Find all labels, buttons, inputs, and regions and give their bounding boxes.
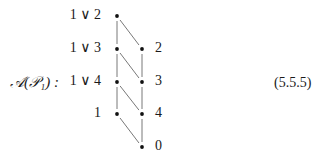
node-dot-2 (140, 47, 144, 51)
node-dot-3 (140, 80, 144, 84)
node-dot-1v4 (115, 80, 119, 84)
node-label-1v3: 1 ∨ 3 (70, 41, 101, 55)
node-label-1v4: 1 ∨ 4 (70, 74, 101, 88)
edge-1v2-2 (120, 20, 139, 45)
node-dot-1v3 (115, 47, 119, 51)
edge-1-0 (120, 118, 139, 143)
node-label-1: 1 (94, 106, 101, 120)
node-label-0: 0 (155, 139, 162, 153)
edge-1v4-4 (120, 86, 139, 110)
node-dot-0 (140, 145, 144, 149)
node-label-3: 3 (155, 74, 162, 88)
node-dot-1 (115, 112, 119, 116)
node-label-1v2: 1 ∨ 2 (70, 8, 101, 22)
node-dot-1v2 (115, 14, 119, 18)
node-dot-4 (140, 112, 144, 116)
node-label-4: 4 (155, 106, 162, 120)
edge-1v3-3 (120, 53, 139, 78)
node-label-2: 2 (155, 41, 162, 55)
